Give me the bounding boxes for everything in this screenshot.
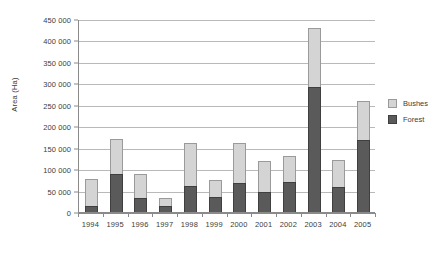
- bar-slot[interactable]: [129, 20, 154, 212]
- bar-segment-forest[interactable]: [159, 206, 172, 212]
- x-axis-tick-labels: 1994199519961997199819992000200120022003…: [78, 213, 375, 235]
- x-axis-tick-label: 2002: [280, 220, 297, 229]
- y-axis-tick-label: 150 000: [43, 144, 71, 153]
- x-axis-tick-mark: [227, 213, 228, 217]
- stacked-bar-chart: Area (Ha) 050 000100 000150 000200 00025…: [0, 0, 447, 255]
- bar-segment-bushes[interactable]: [357, 101, 370, 140]
- legend-item[interactable]: Bushes: [388, 99, 428, 108]
- bar-segment-forest[interactable]: [233, 183, 246, 212]
- bar-slot[interactable]: [277, 20, 302, 212]
- legend-item[interactable]: Forest: [388, 115, 428, 124]
- y-axis-tick-label: 300 000: [43, 80, 71, 89]
- legend-swatch-bushes: [388, 99, 397, 108]
- x-axis-tick-mark: [103, 213, 104, 217]
- x-axis-tick-mark: [152, 213, 153, 217]
- legend-label: Bushes: [403, 99, 428, 108]
- x-axis-tick-mark: [251, 213, 252, 217]
- y-axis-tick-label: 250 000: [43, 101, 71, 110]
- legend-label: Forest: [403, 115, 424, 124]
- stacked-bar[interactable]: [159, 198, 172, 212]
- bar-slot[interactable]: [104, 20, 129, 212]
- y-axis-tick-labels: 050 000100 000150 000200 000250 000300 0…: [0, 20, 78, 213]
- stacked-bar[interactable]: [283, 156, 296, 212]
- bar-segment-bushes[interactable]: [110, 139, 123, 174]
- bar-slot[interactable]: [351, 20, 376, 212]
- bar-slot[interactable]: [153, 20, 178, 212]
- bar-slot[interactable]: [228, 20, 253, 212]
- bar-segment-bushes[interactable]: [233, 143, 246, 183]
- x-axis-tick-mark: [177, 213, 178, 217]
- bar-segment-bushes[interactable]: [134, 174, 147, 198]
- stacked-bar[interactable]: [209, 180, 222, 212]
- x-axis-tick-mark: [301, 213, 302, 217]
- stacked-bar[interactable]: [308, 28, 321, 212]
- bar-group: [79, 20, 375, 212]
- y-axis-tick-label: 100 000: [43, 166, 71, 175]
- x-axis-tick-mark: [128, 213, 129, 217]
- stacked-bar[interactable]: [258, 161, 271, 212]
- x-axis-tick-label: 2004: [329, 220, 346, 229]
- stacked-bar[interactable]: [233, 143, 246, 212]
- stacked-bar[interactable]: [85, 179, 98, 212]
- stacked-bar[interactable]: [110, 139, 123, 212]
- x-axis-tick-mark: [78, 213, 79, 217]
- bar-segment-bushes[interactable]: [85, 179, 98, 206]
- x-axis-tick-mark: [375, 213, 376, 217]
- plot-area: [78, 20, 375, 213]
- x-axis-tick-label: 1996: [131, 220, 148, 229]
- bar-segment-forest[interactable]: [283, 182, 296, 212]
- bar-segment-bushes[interactable]: [159, 198, 172, 206]
- x-axis-tick-label: 2000: [230, 220, 247, 229]
- bar-segment-forest[interactable]: [308, 87, 321, 212]
- bar-segment-bushes[interactable]: [209, 180, 222, 197]
- bar-segment-forest[interactable]: [110, 174, 123, 212]
- x-axis-tick-label: 2005: [354, 220, 371, 229]
- bar-segment-forest[interactable]: [134, 198, 147, 212]
- bar-segment-forest[interactable]: [184, 186, 197, 212]
- x-axis-tick-mark: [276, 213, 277, 217]
- bar-segment-forest[interactable]: [357, 140, 370, 212]
- legend: BushesForest: [388, 99, 428, 124]
- bar-slot[interactable]: [302, 20, 327, 212]
- bar-segment-bushes[interactable]: [283, 156, 296, 182]
- x-axis-tick-label: 2003: [305, 220, 322, 229]
- x-axis-tick-label: 1995: [107, 220, 124, 229]
- bar-slot[interactable]: [327, 20, 352, 212]
- x-axis-tick-mark: [326, 213, 327, 217]
- y-axis-tick-label: 400 000: [43, 37, 71, 46]
- stacked-bar[interactable]: [332, 160, 345, 212]
- y-axis-tick-label: 450 000: [43, 16, 71, 25]
- y-axis-tick-label: 0: [67, 209, 71, 218]
- stacked-bar[interactable]: [134, 174, 147, 212]
- bar-segment-bushes[interactable]: [258, 161, 271, 192]
- bar-slot[interactable]: [79, 20, 104, 212]
- x-axis-tick-label: 1999: [206, 220, 223, 229]
- x-axis-tick-label: 1998: [181, 220, 198, 229]
- bar-segment-forest[interactable]: [332, 187, 345, 212]
- bar-segment-forest[interactable]: [258, 192, 271, 212]
- x-axis-tick-mark: [350, 213, 351, 217]
- y-axis-tick-label: 50 000: [47, 187, 71, 196]
- x-axis-tick-label: 1994: [82, 220, 99, 229]
- y-axis-tick-label: 200 000: [43, 123, 71, 132]
- bar-segment-bushes[interactable]: [308, 28, 321, 87]
- stacked-bar[interactable]: [357, 101, 370, 212]
- x-axis-tick-label: 1997: [156, 220, 173, 229]
- stacked-bar[interactable]: [184, 143, 197, 212]
- bar-slot[interactable]: [203, 20, 228, 212]
- bar-segment-bushes[interactable]: [184, 143, 197, 185]
- x-axis-tick-mark: [202, 213, 203, 217]
- bar-slot[interactable]: [178, 20, 203, 212]
- bar-slot[interactable]: [252, 20, 277, 212]
- x-axis-tick-label: 2001: [255, 220, 272, 229]
- y-axis-tick-label: 350 000: [43, 58, 71, 67]
- bar-segment-forest[interactable]: [85, 206, 98, 212]
- bar-segment-bushes[interactable]: [332, 160, 345, 187]
- bar-segment-forest[interactable]: [209, 197, 222, 212]
- legend-swatch-forest: [388, 115, 397, 124]
